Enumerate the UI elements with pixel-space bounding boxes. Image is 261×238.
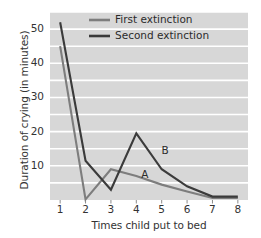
line-chart: Duration of crying (in minutes) Times ch… [0,0,261,238]
x-tick-8: 8 [230,203,246,215]
x-axis-title: Times child put to bed [50,219,248,231]
x-tick-7: 7 [204,203,220,215]
x-tick-1: 1 [52,203,68,215]
x-tick-6: 6 [179,203,195,215]
x-tick-5: 5 [154,203,170,215]
y-tick-40: 40 [20,56,44,68]
y-tick-30: 30 [20,90,44,102]
legend-label-0: First extinction [115,13,193,25]
legend-label-1: Second extinction [115,29,209,41]
annotation-b: B [162,144,169,156]
y-tick-10: 10 [20,159,44,171]
x-tick-3: 3 [103,203,119,215]
annotation-a: A [141,168,148,180]
y-tick-20: 20 [20,125,44,137]
x-tick-4: 4 [128,203,144,215]
y-tick-50: 50 [20,22,44,34]
x-tick-2: 2 [78,203,94,215]
